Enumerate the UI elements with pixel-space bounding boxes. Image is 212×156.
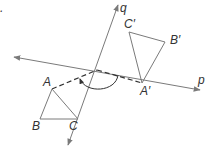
rotation-arc bbox=[80, 75, 118, 89]
dashed-segment-a-prime bbox=[97, 70, 142, 83]
line-p-label: p bbox=[197, 73, 205, 87]
vertex-b-prime-label: B′ bbox=[170, 33, 181, 47]
figure-marker: . bbox=[0, 1, 3, 15]
triangle-a-prime-b-prime-c-prime: A′ B′ C′ bbox=[124, 17, 181, 98]
dashed-segments bbox=[52, 70, 142, 89]
triangle-abc: A B C bbox=[32, 75, 78, 133]
vertex-a-label: A bbox=[42, 75, 51, 89]
triangle-abc-shape bbox=[40, 89, 78, 119]
line-q-label: q bbox=[120, 1, 127, 15]
vertex-b-label: B bbox=[32, 119, 40, 133]
rotation-diagram: . p q A B C A′ B′ C′ bbox=[0, 0, 212, 156]
vertex-a-prime-label: A′ bbox=[139, 84, 151, 98]
vertex-c-prime-label: C′ bbox=[124, 17, 136, 31]
dashed-segment-a bbox=[52, 70, 97, 89]
vertex-c-label: C bbox=[69, 119, 78, 133]
triangle-image-shape bbox=[129, 32, 165, 83]
